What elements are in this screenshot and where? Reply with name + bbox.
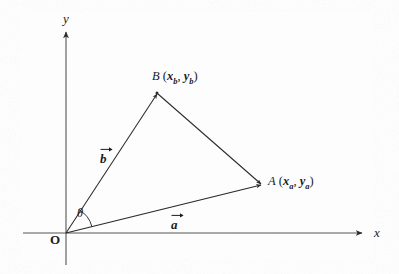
point-b-paren-open: (: [160, 69, 167, 83]
point-b-paren-close: ): [194, 69, 198, 83]
point-a-label: A (xa, ya): [268, 175, 314, 190]
point-a-paren-open: (: [276, 174, 283, 188]
x-axis-label: x: [374, 226, 380, 239]
vector-diagram-figure: y x O B (xb, yb) A (xa, ya) b a θ: [0, 0, 399, 274]
angle-theta-label: θ: [77, 207, 83, 220]
point-b-letter: B: [152, 69, 160, 83]
y-axis-label: y: [63, 12, 69, 25]
point-a-paren-close: ): [310, 174, 314, 188]
vertex-dot-b: [156, 92, 159, 95]
vector-a-glyph: a: [171, 217, 178, 232]
vector-a-label: a: [171, 212, 184, 233]
segment-b-to-a: [158, 94, 261, 184]
point-a-letter: A: [268, 174, 276, 188]
vector-b-label: b: [100, 146, 113, 167]
vector-a-line: [66, 185, 261, 233]
origin-label: O: [50, 233, 60, 246]
vector-b-glyph: b: [100, 151, 107, 166]
point-b-label: B (xb, yb): [152, 70, 198, 85]
